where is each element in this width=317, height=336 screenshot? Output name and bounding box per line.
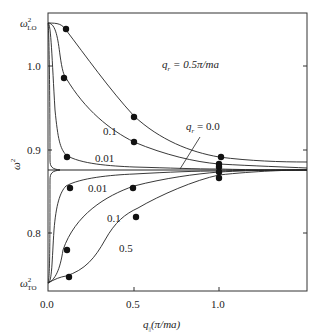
annotation-lower-0-01: 0.01 [88, 182, 107, 194]
y-ticks [48, 66, 307, 233]
annotation-qr-0: qr = 0.0 [186, 120, 220, 135]
y-tick-lo: ω2LO [20, 16, 37, 32]
y-tick-0-8: 0.8 [27, 227, 41, 239]
plot-frame [48, 13, 307, 291]
annotation-qr-0-leader [180, 137, 200, 169]
annotation-lower-0-5: 0.5 [119, 242, 133, 254]
curve-lower-0-5 [48, 170, 307, 283]
curve-upper-0-1 [48, 23, 307, 168]
x-axis-label: q||(π/ma) [143, 318, 181, 332]
curve-upper-0-01 [48, 23, 307, 170]
annotation-lower-0-1: 0.1 [107, 212, 121, 224]
x-tick-0-0: 0.0 [40, 298, 54, 310]
x-tick-1-0: 1.0 [211, 298, 225, 310]
y-tick-to: ω2TO [20, 276, 37, 292]
x-tick-0-5: 0.5 [126, 298, 140, 310]
annotation-upper-0-01: 0.01 [95, 152, 114, 164]
curve-lower-0-1 [48, 170, 307, 283]
y-axis-label: ω2 [9, 158, 22, 170]
upper-curves [48, 23, 307, 170]
y-tick-1-0: 1.0 [27, 60, 41, 72]
annotation-qr-0-5: qr = 0.5π/ma [162, 58, 219, 73]
curve-lower-0-01 [48, 170, 307, 283]
dispersion-chart: ω2LO 1.0 0.9 0.8 ω2TO ω2 0.0 0.5 1.0 q||… [0, 0, 317, 336]
curve-upper-0-5 [48, 23, 307, 162]
y-tick-0-9: 0.9 [27, 144, 41, 156]
annotation-upper-0-1: 0.1 [103, 125, 117, 137]
lower-curves [48, 170, 307, 283]
x-ticks [134, 287, 219, 291]
